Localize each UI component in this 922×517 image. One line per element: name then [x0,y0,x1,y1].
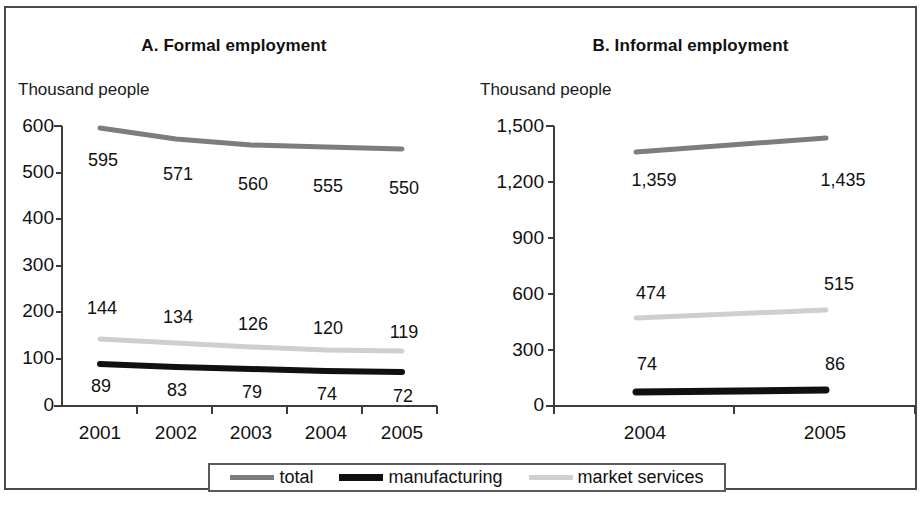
panel-b-label-total-2005: 1,435 [820,170,865,191]
figure-frame: A. Formal employment Thousand people 600… [4,6,917,490]
legend-line-total-icon [230,475,274,480]
legend-item-market-services: market services [529,467,704,488]
figure-root: A. Formal employment Thousand people 600… [0,0,922,517]
legend-label-manufacturing: manufacturing [388,467,502,488]
panel-b-label-manufacturing-2004: 74 [637,354,657,375]
panel-b-label-market-2004: 474 [636,283,666,304]
panel-a-xtick-2001: 2001 [79,422,121,444]
panel-b-series-manufacturing [636,390,826,392]
panel-b-xtick-2004: 2004 [624,422,666,444]
panel-b-plot [462,8,919,492]
panel-a-series-market-services [100,339,402,351]
panel-b-label-total-2004: 1,359 [631,170,676,191]
panel-a-label-manufacturing-2003: 79 [242,382,262,403]
legend-item-manufacturing: manufacturing [339,467,502,488]
legend-label-market-services: market services [578,467,704,488]
panel-a-label-market-2003: 126 [238,314,268,335]
panel-a-label-total-2004: 555 [313,176,343,197]
panel-a-label-total-2001: 595 [88,150,118,171]
panel-a-label-market-2001: 144 [87,298,117,319]
panel-a-xtick-2004: 2004 [305,422,347,444]
panel-b-xtick-2005: 2005 [804,422,846,444]
legend-label-total: total [279,467,313,488]
panel-a-plot [6,8,462,492]
panel-informal-employment: B. Informal employment Thousand people 1… [462,8,919,488]
panel-a-label-total-2005: 550 [389,178,419,199]
panel-a-label-manufacturing-2002: 83 [167,380,187,401]
panel-b-label-market-2005: 515 [824,274,854,295]
panel-a-series-total [100,128,402,149]
legend-item-total: total [230,467,313,488]
legend-line-manufacturing-icon [339,474,383,481]
chart-legend: total manufacturing market services [208,463,726,492]
panel-a-label-market-2005: 119 [390,322,419,343]
panel-a-label-market-2002: 134 [163,307,193,328]
panel-a-label-manufacturing-2001: 89 [91,376,111,397]
panel-a-label-market-2004: 120 [313,318,343,339]
panel-b-series-market-services [636,310,826,318]
panel-a-xtick-2005: 2005 [381,422,423,444]
legend-line-market-services-icon [529,475,573,480]
panel-a-xtick-2002: 2002 [155,422,197,444]
panel-b-series-total [636,138,826,152]
panel-a-label-manufacturing-2005: 72 [393,386,413,407]
panel-a-label-total-2003: 560 [238,174,268,195]
panel-a-xtick-2003: 2003 [230,422,272,444]
panel-a-series-manufacturing [100,364,402,372]
panel-a-label-manufacturing-2004: 74 [317,384,337,405]
panel-a-label-total-2002: 571 [163,164,193,185]
panel-b-label-manufacturing-2005: 86 [825,354,845,375]
panel-formal-employment: A. Formal employment Thousand people 600… [6,8,462,488]
